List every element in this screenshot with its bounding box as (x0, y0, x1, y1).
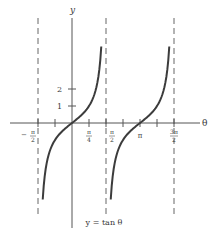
y-tick-label-1: 1 (57, 102, 62, 111)
y-axis-label: y (69, 5, 76, 15)
x-tick-label-pi-over-4: π 4 (86, 128, 92, 143)
x-tick-label-neg-pi-over-2: − π 2 (21, 128, 36, 143)
svg-text:−: − (21, 131, 27, 139)
svg-text:2: 2 (172, 136, 176, 143)
svg-text:3π: 3π (170, 128, 178, 135)
x-axis-label: θ (202, 118, 207, 128)
svg-text:π: π (87, 128, 91, 135)
x-tick-label-pi-over-2: π 2 (109, 128, 115, 143)
x-tick-label-pi: π (138, 132, 143, 140)
svg-text:π: π (110, 128, 114, 135)
svg-text:2: 2 (31, 136, 35, 143)
x-tick-label-3pi-over-2: 3π 2 (170, 128, 178, 143)
figure-caption: y = tan θ (85, 218, 123, 227)
svg-text:2: 2 (110, 136, 114, 143)
y-tick-label-2: 2 (57, 85, 62, 94)
tan-graph: y θ 1 2 − π 2 π 4 π 2 π 3π 2 y = tan θ (0, 0, 211, 235)
svg-text:4: 4 (87, 136, 91, 143)
svg-text:π: π (31, 128, 35, 135)
